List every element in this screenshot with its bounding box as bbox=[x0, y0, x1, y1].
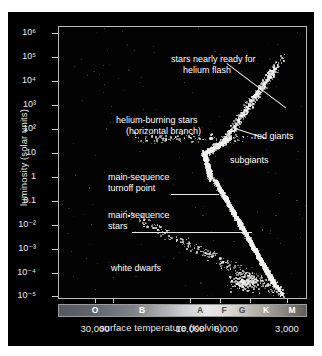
star-point bbox=[235, 267, 236, 268]
star-point bbox=[204, 255, 206, 257]
star-point bbox=[73, 143, 74, 144]
star-point bbox=[281, 62, 282, 63]
star-point bbox=[250, 242, 252, 244]
star-point bbox=[143, 109, 144, 110]
y-tick-label-0p1: 0.1 bbox=[23, 196, 36, 205]
star-point bbox=[203, 157, 204, 158]
star-point bbox=[203, 248, 204, 249]
star-point bbox=[226, 198, 228, 200]
star-point bbox=[230, 142, 232, 144]
star-point bbox=[99, 74, 100, 75]
star-point bbox=[239, 140, 240, 141]
y-tick-label-1em3: 10⁻³ bbox=[18, 244, 36, 253]
star-point bbox=[227, 260, 228, 261]
star-point bbox=[191, 138, 192, 139]
x-tick-label-3000: 3,000 bbox=[257, 323, 317, 334]
star-point bbox=[242, 110, 243, 111]
star-point bbox=[211, 138, 212, 139]
star-point bbox=[198, 137, 200, 139]
star-point bbox=[170, 140, 171, 141]
star-point bbox=[186, 259, 187, 260]
star-point bbox=[249, 281, 250, 282]
star-point bbox=[253, 276, 255, 278]
star-point bbox=[276, 291, 278, 293]
star-point bbox=[173, 258, 174, 259]
star-point bbox=[296, 200, 297, 201]
star-point bbox=[198, 28, 199, 29]
star-point bbox=[229, 264, 231, 266]
star-point bbox=[218, 142, 220, 144]
star-point bbox=[269, 83, 270, 84]
star-point bbox=[221, 139, 223, 141]
star-point bbox=[213, 179, 215, 181]
star-point bbox=[230, 291, 232, 293]
star-point bbox=[242, 285, 244, 287]
star-point bbox=[192, 249, 193, 250]
star-point bbox=[271, 276, 272, 277]
star-point bbox=[74, 66, 75, 67]
y-tick-label-1: 1 bbox=[31, 172, 36, 181]
star-point bbox=[83, 214, 84, 215]
star-point bbox=[205, 153, 207, 155]
star-point bbox=[191, 141, 192, 142]
star-point bbox=[273, 295, 274, 296]
star-point bbox=[299, 296, 300, 297]
star-point bbox=[256, 99, 258, 101]
star-point bbox=[227, 132, 229, 134]
star-point bbox=[210, 134, 212, 136]
star-point bbox=[89, 244, 90, 245]
star-point bbox=[207, 260, 209, 262]
star-point bbox=[250, 240, 251, 241]
star-point bbox=[262, 79, 264, 81]
star-point bbox=[238, 275, 240, 277]
star-point bbox=[269, 233, 270, 234]
star-point bbox=[280, 295, 281, 296]
star-point bbox=[135, 276, 136, 277]
star-point bbox=[138, 141, 139, 142]
star-point bbox=[220, 188, 222, 190]
star-point bbox=[59, 174, 60, 175]
star-point bbox=[235, 286, 236, 287]
star-point bbox=[107, 50, 108, 51]
star-point bbox=[186, 239, 187, 240]
star-point bbox=[271, 77, 273, 79]
star-point bbox=[299, 214, 300, 215]
star-point bbox=[126, 44, 127, 45]
star-point bbox=[264, 264, 266, 266]
star-point bbox=[267, 84, 268, 85]
star-point bbox=[216, 263, 217, 264]
star-point bbox=[276, 86, 277, 87]
spectral-class-G: G bbox=[235, 305, 249, 315]
star-point bbox=[242, 116, 244, 118]
star-point bbox=[154, 143, 156, 145]
star-point bbox=[297, 32, 298, 33]
star-point bbox=[212, 294, 213, 295]
spectral-class-K: K bbox=[259, 305, 273, 315]
star-point bbox=[95, 155, 96, 156]
star-point bbox=[106, 128, 107, 129]
star-point bbox=[247, 106, 249, 108]
star-point bbox=[164, 233, 165, 234]
star-point bbox=[279, 66, 280, 67]
star-point bbox=[141, 244, 142, 245]
star-point bbox=[237, 119, 238, 120]
annotation-horizontal-branch-line2: (horizontal branch) bbox=[116, 126, 201, 137]
star-point bbox=[261, 259, 262, 260]
spectral-class-O: O bbox=[88, 305, 102, 315]
star-point bbox=[188, 246, 189, 247]
star-point bbox=[169, 143, 170, 144]
star-point bbox=[184, 82, 185, 83]
y-tick-label-10: 10 bbox=[26, 148, 36, 157]
star-point bbox=[258, 98, 259, 99]
star-point bbox=[237, 288, 238, 289]
star-point bbox=[260, 282, 262, 284]
star-point bbox=[182, 239, 184, 241]
star-point bbox=[228, 270, 229, 271]
star-point bbox=[240, 269, 241, 270]
hr-diagram-figure: luminosity (solar units) surface tempera… bbox=[8, 12, 314, 346]
y-tick-label-1em5: 10⁻⁵ bbox=[18, 291, 37, 300]
star-point bbox=[252, 242, 254, 244]
star-point bbox=[287, 293, 288, 294]
star-point bbox=[59, 33, 60, 34]
star-point bbox=[207, 250, 209, 252]
